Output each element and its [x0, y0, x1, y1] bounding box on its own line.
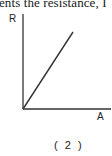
line-graph	[0, 0, 112, 156]
y-axis-label: R	[9, 14, 16, 24]
figure-label: ( 2 )	[54, 139, 84, 151]
data-line	[23, 32, 73, 109]
x-axis-label: A	[97, 112, 104, 122]
